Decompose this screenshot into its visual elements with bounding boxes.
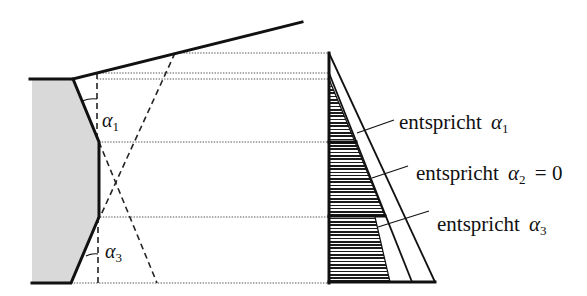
leader-line-alpha2 [372,166,408,178]
annotation-alpha1: entspricht α1 [399,110,509,136]
inclined-ground-surface [73,22,302,79]
section-edge-alpha2 [355,142,385,216]
angle-label-alpha3: α3 [105,240,122,265]
angle-label-alpha1: α1 [102,109,119,134]
wall-body [32,79,99,283]
annotation-alpha2: entspricht α2 = 0 [416,161,562,187]
annotation-alpha3: entspricht α3 [437,212,547,238]
angle-arc-alpha3 [86,254,98,256]
slip-plane-line-a [100,53,175,217]
earth-pressure-diagram: α1 α3 entspricht α1 entspricht α2 = 0 en… [0,0,587,296]
section-edge-alpha1 [329,79,355,142]
pressure-line-middle [329,73,412,282]
diagram-svg: α1 α3 entspricht α1 entspricht α2 = 0 en… [0,0,587,296]
section-edge-alpha3 [375,217,390,282]
angle-arc-alpha1 [82,99,97,101]
